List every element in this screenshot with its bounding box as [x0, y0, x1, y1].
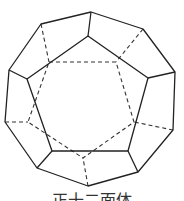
hidden-edge	[134, 122, 173, 130]
visible-edge	[148, 72, 175, 78]
front-pentagon	[27, 36, 148, 151]
visible-edge	[88, 12, 91, 36]
hidden-edge	[41, 24, 49, 62]
visible-edge	[37, 151, 52, 168]
visible-edge	[128, 151, 138, 172]
figure-caption: 正十二面体	[0, 192, 184, 201]
hidden-edge	[116, 29, 143, 62]
dodecahedron-diagram	[0, 0, 184, 201]
back-pentagon	[28, 62, 134, 158]
visible-edge	[9, 70, 27, 79]
visible-edges	[5, 12, 175, 186]
hidden-edges	[5, 24, 173, 186]
hidden-edge	[83, 158, 88, 186]
